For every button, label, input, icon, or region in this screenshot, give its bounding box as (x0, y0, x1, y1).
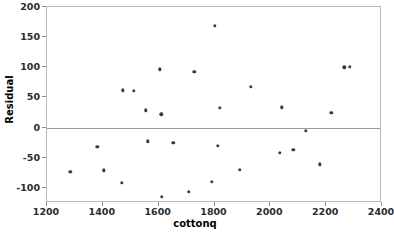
y-axis-tick-label: -100 (16, 181, 40, 192)
data-point (216, 144, 219, 147)
data-point (280, 105, 283, 108)
x-axis-tick-label: 1800 (200, 206, 226, 217)
y-axis-tick (42, 187, 46, 188)
x-axis-tick-label: 2200 (312, 206, 338, 217)
data-point (192, 70, 195, 73)
data-point (292, 148, 295, 151)
data-point (172, 141, 175, 144)
zero-reference-line (47, 128, 380, 129)
x-axis-label: cottonq (0, 218, 390, 229)
data-point (249, 85, 252, 88)
data-point (146, 140, 149, 143)
y-axis-tick (42, 157, 46, 158)
y-axis-tick-label: -50 (23, 151, 40, 162)
data-point (348, 65, 351, 68)
data-point (278, 151, 281, 154)
data-point (318, 163, 321, 166)
data-point (68, 170, 71, 173)
y-axis-tick-label: 50 (27, 91, 40, 102)
data-point (187, 190, 190, 193)
data-point (132, 89, 135, 92)
y-axis-tick-label: 200 (20, 1, 40, 12)
x-axis-tick-label: 1200 (33, 206, 59, 217)
y-axis-tick-label: 150 (20, 31, 40, 42)
data-point (304, 129, 307, 132)
data-point (213, 24, 216, 27)
data-point (160, 195, 163, 198)
data-point (102, 169, 105, 172)
x-axis-tick-label: 2400 (368, 206, 394, 217)
y-axis-tick (42, 36, 46, 37)
data-point (160, 113, 163, 116)
y-axis-label: Residual (4, 55, 15, 145)
plot-area (46, 6, 381, 202)
y-axis-tick (42, 6, 46, 7)
y-axis-tick-label: 100 (20, 61, 40, 72)
y-axis-tick (42, 96, 46, 97)
data-point (120, 181, 123, 184)
x-axis-tick-label: 2000 (256, 206, 282, 217)
data-point (343, 66, 346, 69)
data-point (144, 108, 147, 111)
data-point (238, 168, 241, 171)
data-point (218, 106, 221, 109)
y-axis-tick (42, 66, 46, 67)
data-point (210, 180, 213, 183)
data-point (158, 67, 161, 70)
data-point (121, 89, 124, 92)
data-point (96, 145, 99, 148)
y-axis-tick-label: 0 (33, 121, 40, 132)
x-axis-tick-label: 1400 (89, 206, 115, 217)
data-point (329, 111, 332, 114)
y-axis-tick (42, 127, 46, 128)
x-axis-tick-label: 1600 (144, 206, 170, 217)
